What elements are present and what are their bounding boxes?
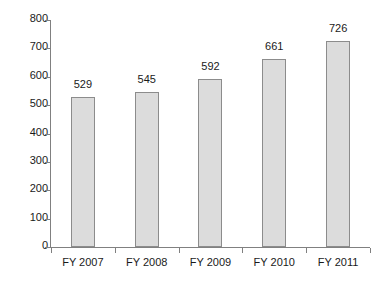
x-axis-category-label: FY 2007 — [51, 256, 115, 268]
bar-group: 726 — [306, 20, 370, 247]
bar-value-label: 592 — [201, 61, 219, 72]
x-axis-category-label: FY 2011 — [306, 256, 370, 268]
bar — [135, 92, 159, 247]
x-axis-line — [50, 247, 370, 248]
bar — [71, 97, 95, 247]
plot-area: 529545592661726 — [51, 20, 370, 247]
bar-group: 592 — [179, 20, 243, 247]
bar-value-label: 529 — [74, 79, 92, 90]
x-axis-tick-mark — [179, 248, 180, 253]
bar-group: 545 — [115, 20, 179, 247]
y-axis-tick-label: 500 — [30, 98, 48, 109]
x-axis-category-label: FY 2009 — [179, 256, 243, 268]
bar-value-label: 661 — [265, 41, 283, 52]
x-axis-tick-mark — [242, 248, 243, 253]
y-axis-tick-mark — [45, 77, 50, 78]
x-axis-tick-mark — [370, 248, 371, 253]
y-axis-tick-label: 600 — [30, 70, 48, 81]
bar — [198, 79, 222, 247]
y-axis-tick-label: 300 — [30, 155, 48, 166]
y-axis-tick-mark — [45, 219, 50, 220]
y-axis-tick-mark — [45, 20, 50, 21]
bar-value-label: 545 — [138, 74, 156, 85]
bar-chart: 0100200300400500600700800 52954559266172… — [0, 0, 389, 282]
y-axis-tick-mark — [45, 105, 50, 106]
x-axis-tick-mark — [51, 248, 52, 253]
y-axis-tick-mark — [45, 134, 50, 135]
bar — [326, 41, 350, 247]
x-axis-category-label: FY 2008 — [115, 256, 179, 268]
y-axis-tick-mark — [45, 48, 50, 49]
y-axis-tick-label: 0 — [42, 240, 48, 251]
x-axis-category-label: FY 2010 — [242, 256, 306, 268]
bar-value-label: 726 — [329, 23, 347, 34]
y-axis-tick-mark — [45, 162, 50, 163]
y-axis-tick-label: 400 — [30, 127, 48, 138]
y-axis-tick-label: 700 — [30, 41, 48, 52]
x-axis-tick-mark — [115, 248, 116, 253]
bar-group: 661 — [242, 20, 306, 247]
y-axis-tick-label: 200 — [30, 183, 48, 194]
bar — [262, 59, 286, 247]
x-axis-tick-mark — [306, 248, 307, 253]
y-axis-tick-mark — [45, 190, 50, 191]
y-axis-tick-label: 800 — [30, 13, 48, 24]
y-axis-tick-label: 100 — [30, 212, 48, 223]
bar-group: 529 — [51, 20, 115, 247]
